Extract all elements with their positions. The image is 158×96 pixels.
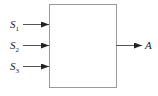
- input-s2-label: S2: [10, 39, 20, 54]
- input-s2: S2: [10, 39, 49, 54]
- input-s3-label: S3: [10, 60, 20, 75]
- output-a-label: A: [144, 39, 152, 51]
- input-s3: S3: [10, 60, 49, 75]
- output-a: A: [116, 39, 152, 51]
- input-s1: S1: [10, 18, 49, 33]
- input-s1-label: S1: [10, 18, 20, 33]
- system-block: [50, 5, 117, 88]
- block-diagram: S1 S2 S3 A: [0, 0, 158, 96]
